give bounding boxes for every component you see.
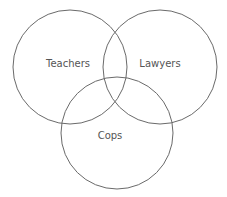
label-cops: Cops: [98, 130, 123, 141]
label-lawyers: Lawyers: [139, 58, 180, 69]
venn-diagram: Teachers Lawyers Cops: [0, 0, 227, 197]
label-teachers: Teachers: [45, 58, 90, 69]
